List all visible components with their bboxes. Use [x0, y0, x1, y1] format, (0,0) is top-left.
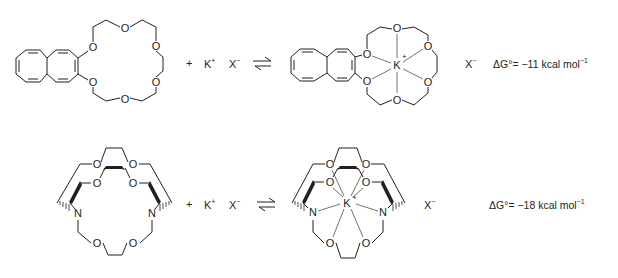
potassium-cation: K+ — [204, 198, 215, 211]
naphtho-crown-ether — [16, 20, 163, 101]
nitrogen-atom: N — [74, 207, 82, 219]
oxygen-atom: O — [89, 76, 98, 88]
product-anion: X− — [424, 198, 435, 211]
oxygen-atom: O — [326, 158, 335, 170]
oxygen-atom: O — [362, 158, 371, 170]
oxygen-atom: O — [129, 177, 138, 189]
oxygen-atom: O — [424, 40, 433, 52]
oxygen-atom: O — [152, 40, 161, 52]
product-anion: X− — [465, 57, 476, 70]
plus-sign: + — [186, 57, 192, 69]
oxygen-atom: O — [424, 76, 433, 88]
charge-plus: + — [402, 52, 407, 61]
oxygen-atom: O — [363, 48, 372, 60]
charge-plus: + — [352, 193, 357, 202]
delta-g-value: ΔG°= −18 kcal mol−1 — [489, 198, 585, 211]
delta-g-value: ΔG°= −11 kcal mol−1 — [493, 57, 588, 70]
cryptand — [57, 148, 172, 255]
anion: X− — [229, 198, 240, 211]
equilibrium-arrow-icon — [253, 57, 271, 70]
nitrogen-atom: N — [309, 206, 317, 218]
nitrogen-atom: N — [148, 207, 156, 219]
oxygen-atom: O — [93, 177, 102, 189]
oxygen-atom: O — [362, 176, 371, 188]
oxygen-atom: O — [93, 237, 102, 249]
potassium-atom: K — [393, 59, 401, 71]
oxygen-atom: O — [121, 93, 130, 105]
naphtho-crown-k-complex — [291, 27, 437, 105]
oxygen-atom: O — [363, 75, 372, 87]
oxygen-atom: O — [152, 76, 161, 88]
oxygen-atom: O — [89, 41, 98, 53]
oxygen-atom: O — [129, 158, 138, 170]
oxygen-atom: O — [93, 158, 102, 170]
oxygen-atom: O — [326, 176, 335, 188]
oxygen-atom: O — [393, 94, 402, 106]
potassium-atom: K — [343, 197, 351, 209]
plus-sign: + — [186, 198, 192, 210]
nitrogen-atom: N — [379, 206, 387, 218]
oxygen-atom: O — [121, 22, 130, 34]
reaction-diagram: O O O O O O O O O O O O K — [0, 0, 618, 278]
anion: X− — [229, 57, 240, 70]
oxygen-atom: O — [129, 237, 138, 249]
potassium-cation: K+ — [204, 57, 215, 70]
oxygen-atom: O — [326, 237, 335, 249]
equilibrium-arrow-icon — [257, 198, 275, 211]
oxygen-atom: O — [362, 237, 371, 249]
oxygen-atom: O — [393, 22, 402, 34]
